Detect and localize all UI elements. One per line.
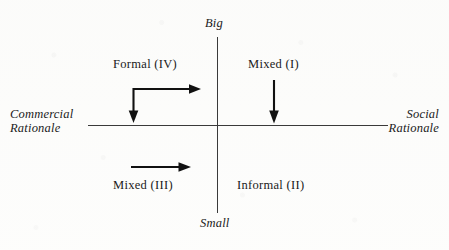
axis-label-commercial-line1: Commercial: [10, 107, 73, 121]
axis-label-social-line1: Social: [389, 107, 439, 121]
quadrant-label-mixed-i: Mixed (I): [248, 57, 299, 71]
down-arrow-mixed-i: [269, 80, 279, 124]
elbow-arrow-down-head: [129, 111, 139, 124]
axis-label-big: Big: [205, 16, 223, 30]
axis-label-small: Small: [200, 216, 229, 230]
axis-label-social-rationale: Social Rationale: [389, 107, 439, 136]
quadrant-label-formal-iv: Formal (IV): [113, 57, 177, 71]
axis-label-social-line2: Rationale: [389, 121, 439, 135]
elbow-arrow-right-head: [189, 84, 201, 94]
down-arrow-head: [269, 111, 279, 124]
diagram-canvas: Big Small Commercial Rationale Social Ra…: [0, 0, 449, 250]
elbow-arrow-formal: [129, 84, 201, 123]
quadrant-label-mixed-iii: Mixed (III): [113, 178, 173, 192]
quadrant-label-informal-ii: Informal (II): [237, 178, 304, 192]
right-arrow-mixed-iii: [131, 162, 191, 172]
axis-label-commercial-line2: Rationale: [10, 121, 73, 135]
axis-label-commercial-rationale: Commercial Rationale: [10, 107, 73, 136]
right-arrow-head: [179, 162, 192, 172]
